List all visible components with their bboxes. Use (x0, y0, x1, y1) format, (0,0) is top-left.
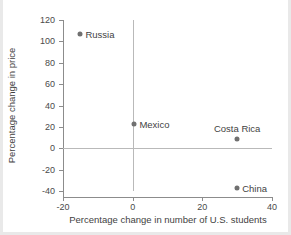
page-edge-left (0, 0, 3, 235)
y-tick-label: 0 (0, 143, 55, 153)
scatter-plot-figure: Percentage change in price 1201008060402… (0, 0, 291, 235)
y-tick-label: 20 (0, 122, 55, 132)
data-point-label-china: China (242, 182, 267, 193)
y-tick-label: 100 (0, 36, 55, 46)
y-tick-label: 40 (0, 101, 55, 111)
data-point-mexico[interactable] (132, 121, 137, 126)
x-axis-title: Percentage change in number of U.S. stud… (63, 214, 273, 225)
y-tick-mark (59, 191, 63, 192)
x-tick-mark (63, 197, 64, 201)
plot-area: RussiaMexicoCosta RicaChina (63, 20, 272, 191)
x-tick-mark (272, 197, 273, 201)
y-tick-label: 60 (0, 79, 55, 89)
data-point-russia[interactable] (78, 31, 83, 36)
x-tick-mark (133, 197, 134, 201)
y-tick-label: 120 (0, 15, 55, 25)
y-tick-label: 80 (0, 58, 55, 68)
x-axis-spine (63, 197, 273, 198)
zero-line-vertical (133, 20, 134, 191)
data-point-costa-rica[interactable] (235, 136, 240, 141)
y-tick-label: -20 (0, 165, 55, 175)
data-point-label-costa-rica: Costa Rica (214, 123, 260, 134)
x-tick-mark (202, 197, 203, 201)
zero-line-horizontal (63, 148, 272, 149)
y-tick-label: -40 (0, 186, 55, 196)
data-point-label-russia: Russia (85, 28, 114, 39)
x-tick-label: 20 (197, 202, 207, 212)
data-point-china[interactable] (235, 185, 240, 190)
x-axis-title-text: Percentage change in number of U.S. stud… (69, 214, 267, 225)
x-tick-label: 40 (267, 202, 277, 212)
page-edge-bottom (0, 232, 291, 235)
x-tick-label: -20 (56, 202, 69, 212)
data-point-label-mexico: Mexico (139, 118, 169, 129)
page-edge-right (288, 0, 291, 235)
x-tick-label: 0 (130, 202, 135, 212)
